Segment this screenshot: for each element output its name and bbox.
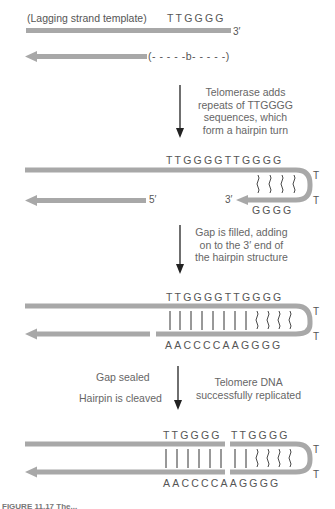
hydrogen-bonds — [256, 311, 291, 329]
down-arrow-3 — [174, 366, 182, 410]
caption-line: Telomerase adds — [198, 86, 293, 99]
caption-line: sequences, which — [198, 111, 293, 124]
final-top-sequence-a: TTGGGG — [163, 429, 222, 441]
five-prime-label: 5′ — [149, 194, 156, 205]
telomerase-caption: Telomerase adds repeats of TTGGGG sequen… — [198, 86, 293, 136]
caption-line: Telomere DNA — [196, 376, 301, 389]
caption-line: successfully replicated — [196, 389, 301, 402]
final-top-sequence-b: TTGGGG — [231, 429, 290, 441]
hairpin-bottom-sequence: GGGG — [252, 204, 293, 216]
gap-label: (- - - - -b- - - - -) — [148, 50, 230, 62]
base-pair-lines — [170, 311, 246, 330]
loop-t-bottom: T — [313, 469, 319, 480]
down-arrow-1 — [176, 85, 184, 138]
loop-t-bottom: T — [313, 331, 319, 342]
down-arrow-2 — [176, 225, 184, 274]
final-bottom-sequence: AACCCCAAGGGG — [163, 477, 280, 489]
lagging-strand-arrow — [25, 51, 147, 62]
hydrogen-bonds — [256, 449, 291, 467]
primer-strand-arrow — [25, 195, 146, 206]
gap-sealed-label: Gap sealed — [96, 371, 150, 384]
caption-line: the hairpin structure — [195, 251, 288, 264]
caption-line: Gap is filled, adding — [195, 226, 288, 239]
loop-t-top: T — [313, 444, 319, 455]
replicated-caption: Telomere DNA successfully replicated — [196, 376, 301, 401]
filled-top-sequence: TTGGGGTTGGGG — [166, 291, 283, 303]
template-sequence: TTGGGG — [167, 12, 226, 24]
loop-t-bottom: T — [313, 195, 319, 206]
caption-line: form a hairpin turn — [198, 124, 293, 137]
loop-t-top: T — [313, 306, 319, 317]
filled-bottom-sequence: AACCCCAAGGGG — [165, 339, 282, 351]
lagging-strand-label: (Lagging strand template) — [27, 12, 147, 24]
caption-line: repeats of TTGGGG — [198, 99, 293, 112]
figure-caption: FIGURE 11.17 The... — [2, 502, 77, 509]
loop-t-top: T — [313, 170, 319, 181]
hairpin-2 — [25, 306, 310, 340]
three-prime-label: 3′ — [233, 26, 240, 37]
template-strand — [26, 28, 231, 33]
gap-filled-caption: Gap is filled, adding on to the 3′ end o… — [195, 226, 288, 264]
caption-line: on to the 3′ end of — [195, 239, 288, 252]
base-pair-lines — [166, 449, 246, 468]
hairpin-3 — [25, 444, 310, 478]
three-prime-hairpin-label: 3′ — [225, 194, 232, 205]
hydrogen-bonds — [257, 175, 295, 193]
hairpin-top-sequence: TTGGGGTTGGGG — [166, 154, 283, 166]
hairpin-cleaved-label: Hairpin is cleaved — [79, 392, 162, 405]
